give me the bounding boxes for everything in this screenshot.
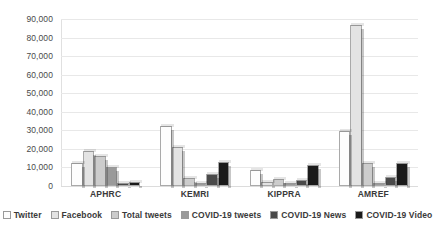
legend-item-covid-19-tweets[interactable]: COVID-19 tweets	[181, 210, 262, 220]
bars-layer	[61, 19, 418, 186]
y-axis-tick-label: 0	[48, 181, 53, 191]
y-axis-tick-label: 80,000	[26, 33, 53, 43]
y-axis-tick-label: 40,000	[26, 107, 53, 117]
bar[interactable]	[250, 170, 262, 186]
legend-swatch-icon	[355, 211, 363, 219]
bar[interactable]	[71, 163, 83, 186]
y-axis: 010,00020,00030,00040,00050,00060,00070,…	[0, 19, 57, 186]
chart-legend: TwitterFacebookTotal tweetsCOVID-19 twee…	[0, 210, 435, 220]
legend-item-facebook[interactable]: Facebook	[51, 210, 102, 220]
legend-label: COVID-19 News	[281, 210, 346, 220]
y-axis-tick-label: 90,000	[26, 14, 53, 24]
legend-label: Facebook	[62, 210, 102, 220]
bar[interactable]	[307, 165, 319, 186]
bar-group-kippra	[240, 19, 329, 186]
legend-label: Total tweets	[122, 210, 172, 220]
bar-group-aphrc	[61, 19, 150, 186]
bar-chart: 010,00020,00030,00040,00050,00060,00070,…	[0, 0, 435, 233]
gridline-0	[61, 186, 418, 187]
bar-rect	[160, 126, 172, 186]
legend-label: Twitter	[14, 210, 42, 220]
y-axis-tick-label: 20,000	[26, 144, 53, 154]
bar[interactable]	[339, 131, 351, 186]
legend-label: COVID-19 tweets	[192, 210, 262, 220]
bar-group-amref	[329, 19, 418, 186]
bar-group-kemri	[150, 19, 239, 186]
x-axis-tick-label-aphrc: APHRC	[61, 189, 150, 199]
y-axis-tick-label: 70,000	[26, 51, 53, 61]
y-axis-tick-label: 50,000	[26, 88, 53, 98]
bar-rect	[250, 170, 262, 186]
x-axis: APHRCKEMRIKIPPRAAMREF	[61, 189, 418, 205]
legend-swatch-icon	[51, 211, 59, 219]
legend-item-covid-19-video[interactable]: COVID-19 Video	[355, 210, 432, 220]
bar-rect	[71, 163, 83, 186]
x-axis-tick-label-kippra: KIPPRA	[240, 189, 329, 199]
bar-rect	[339, 131, 351, 186]
bar-rect	[307, 165, 319, 186]
y-axis-tick-label: 60,000	[26, 70, 53, 80]
legend-item-total-tweets[interactable]: Total tweets	[111, 210, 172, 220]
bar[interactable]	[160, 126, 172, 186]
legend-swatch-icon	[111, 211, 119, 219]
y-axis-tick-label: 30,000	[26, 125, 53, 135]
legend-label: COVID-19 Video	[366, 210, 432, 220]
legend-swatch-icon	[3, 211, 11, 219]
legend-swatch-icon	[181, 211, 189, 219]
x-axis-tick-label-kemri: KEMRI	[150, 189, 239, 199]
legend-item-twitter[interactable]: Twitter	[3, 210, 42, 220]
legend-swatch-icon	[270, 211, 278, 219]
x-axis-tick-label-amref: AMREF	[329, 189, 418, 199]
legend-item-covid-19-news[interactable]: COVID-19 News	[270, 210, 346, 220]
y-axis-tick-label: 10,000	[26, 162, 53, 172]
